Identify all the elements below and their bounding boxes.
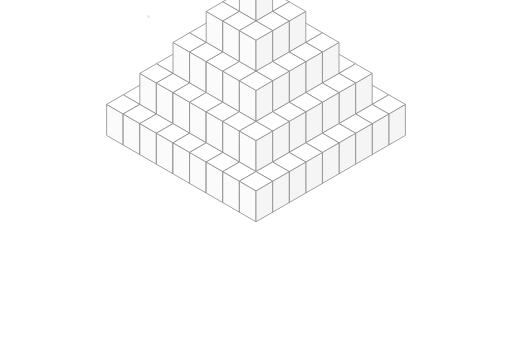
cube-stack-drawing — [0, 0, 510, 359]
cube — [239, 21, 272, 71]
cube — [239, 71, 272, 121]
cube — [239, 172, 272, 222]
scan-speck-artifact — [147, 15, 150, 18]
isometric-cube-figure — [0, 0, 510, 359]
cube — [239, 121, 272, 171]
